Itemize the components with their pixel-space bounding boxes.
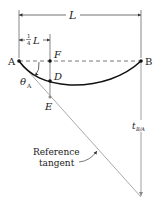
point-e — [49, 96, 52, 99]
angle-arc — [35, 62, 39, 76]
angle-subscript: A — [26, 82, 32, 89]
label-d: D — [53, 71, 62, 82]
quarter-symbol: L — [32, 35, 40, 46]
label-a: A — [7, 56, 16, 67]
reference-tangent-line — [19, 61, 141, 197]
label-e: E — [44, 101, 53, 112]
label-b: B — [145, 56, 152, 67]
quarter-numerator: 1 — [27, 33, 31, 39]
annotation-line2: tangent — [39, 158, 75, 168]
angle-symbol: θ — [20, 76, 26, 87]
point-b — [139, 59, 143, 63]
deviation-subscript: B/A — [135, 126, 145, 132]
annotation-line1: Reference — [33, 147, 80, 157]
point-d — [48, 79, 52, 83]
annotation-leader — [79, 151, 97, 162]
point-a — [17, 59, 21, 63]
point-f — [48, 59, 52, 63]
quarter-denominator: 4 — [27, 40, 31, 46]
beam-diagram: L 1 4 L t B/A θ A A F B D E Reference ta… — [0, 0, 161, 199]
span-label: L — [68, 9, 76, 22]
label-f: F — [53, 49, 62, 60]
